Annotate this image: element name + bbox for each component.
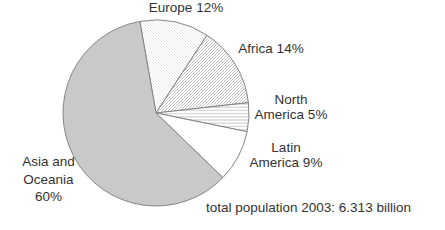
total-population-note: total population 2003: 6.313 billion xyxy=(206,201,411,216)
label-north-america-line2: America 5% xyxy=(231,108,351,123)
label-north-america-line1: North xyxy=(231,93,351,108)
label-latin-america-line2: America 9% xyxy=(226,156,346,171)
label-africa: Africa 14% xyxy=(211,42,331,57)
pie-chart-figure: Europe 12% Africa 14% North America 5% L… xyxy=(0,0,445,230)
label-latin-america: Latin America 9% xyxy=(226,141,346,170)
label-asia-oceania-line2: Oceania xyxy=(0,171,97,189)
label-europe: Europe 12% xyxy=(116,1,256,16)
label-asia-oceania-line3: 60% xyxy=(0,188,97,206)
label-latin-america-line1: Latin xyxy=(226,141,346,156)
label-north-america: North America 5% xyxy=(231,93,351,122)
label-asia-oceania: Asia and Oceania 60% xyxy=(0,153,97,206)
label-asia-oceania-line1: Asia and xyxy=(0,153,97,171)
